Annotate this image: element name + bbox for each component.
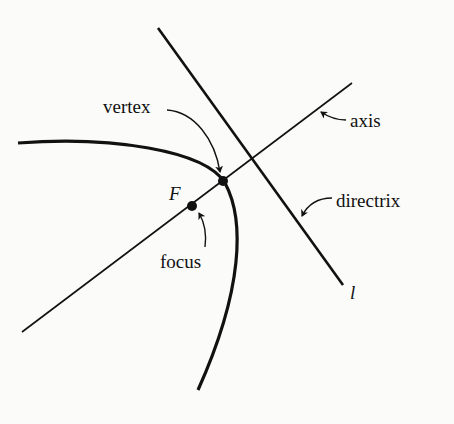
parabola-diagram: vertex axis directrix focus F l	[0, 0, 454, 424]
directrix-line-label: l	[350, 282, 355, 303]
vertex-point	[218, 176, 228, 186]
directrix-label: directrix	[336, 190, 401, 211]
focus-pointer-arrow	[199, 213, 206, 247]
directrix-pointer-arrow	[302, 198, 332, 216]
focus-label: focus	[160, 251, 201, 272]
diagram-svg: vertex axis directrix focus F l	[0, 0, 454, 424]
axis-label: axis	[350, 110, 381, 131]
parabola-curve	[18, 141, 237, 390]
vertex-label: vertex	[103, 96, 151, 117]
focus-point-label: F	[168, 183, 181, 204]
axis-line	[22, 83, 352, 332]
axis-pointer-arrow	[321, 112, 346, 120]
focus-point	[187, 201, 197, 211]
vertex-pointer-arrow	[167, 110, 220, 172]
